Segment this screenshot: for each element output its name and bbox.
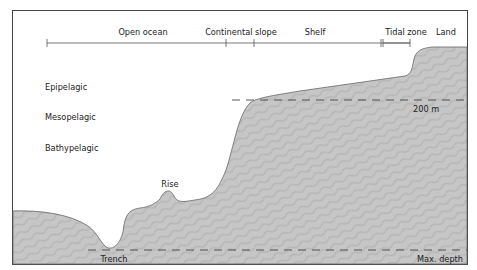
zone-label-continental-slope: Continental slope	[205, 27, 277, 37]
zone-label-land: Land	[436, 27, 456, 37]
ocean-zones-diagram: Open ocean Continental slope Shelf Tidal…	[0, 0, 477, 270]
zone-label-tidal-zone: Tidal zone	[384, 27, 427, 37]
zones-ruler	[47, 39, 410, 47]
layer-label-mesopelagic: Mesopelagic	[45, 112, 96, 122]
zone-label-shelf: Shelf	[305, 27, 327, 37]
layer-label-epipelagic: Epipelagic	[45, 82, 87, 92]
layer-label-bathypelagic: Bathypelagic	[45, 143, 98, 153]
feature-label-trench: Trench	[100, 254, 128, 264]
seafloor-profile	[13, 47, 467, 264]
depth-label-max: Max. depth	[417, 254, 463, 264]
depth-label-200m: 200 m	[413, 104, 439, 114]
zone-label-open-ocean: Open ocean	[118, 27, 167, 37]
feature-label-rise: Rise	[161, 179, 178, 189]
